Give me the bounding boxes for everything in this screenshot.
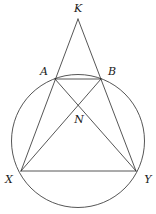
point-label-K: K [74, 3, 82, 14]
point-label-B: B [108, 66, 116, 77]
geometry-canvas [0, 0, 156, 214]
segment-BX [21, 79, 101, 171]
point-label-X: X [5, 174, 13, 185]
point-label-N: N [74, 114, 84, 125]
point-label-Y: Y [144, 174, 151, 185]
point-label-A: A [40, 66, 48, 77]
geometry-figure: K A B N X Y [0, 0, 156, 214]
